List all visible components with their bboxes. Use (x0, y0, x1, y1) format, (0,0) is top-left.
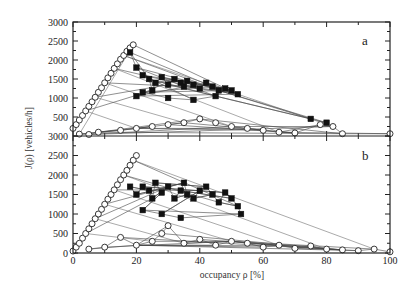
y-tick-label-b: 1500 (48, 189, 68, 200)
y-tick-label-a: 1000 (48, 93, 68, 104)
x-tick-label: 100 (383, 255, 398, 266)
y-tick-label-b: 0 (63, 248, 68, 259)
y-tick-label-a: 1500 (48, 74, 68, 85)
y-axis-ticks-panel-b: 050010001500200025003000 (48, 131, 68, 259)
y-tick-label-a: 2500 (48, 36, 68, 47)
panel-b-plot (70, 136, 393, 255)
panel-a-label: a (362, 33, 368, 48)
fundamental-diagram-chart: a b 50010001500200025003000 050010001500… (0, 0, 417, 299)
y-tick-label-b: 500 (53, 228, 68, 239)
y-tick-label-a: 500 (53, 112, 68, 123)
x-tick-label: 80 (322, 255, 332, 266)
x-axis-label: occupancy ρ [%] (200, 270, 264, 280)
x-tick-label: 60 (258, 255, 268, 266)
panel-a-plot (70, 22, 393, 137)
y-tick-label-b: 2000 (48, 170, 68, 181)
y-tick-label-b: 3000 (48, 131, 68, 142)
x-axis-ticks: 020406080100 (71, 255, 398, 266)
y-tick-label-a: 2000 (48, 55, 68, 66)
y-tick-label-b: 1000 (48, 209, 68, 220)
y-tick-label-b: 2500 (48, 150, 68, 161)
y-tick-label-a: 3000 (48, 17, 68, 28)
x-tick-label: 40 (195, 255, 205, 266)
y-axis-label: J(ρ) [vehicles/h] (24, 107, 35, 169)
x-tick-label: 20 (131, 255, 141, 266)
x-tick-label: 0 (71, 255, 76, 266)
panel-b-label: b (362, 148, 369, 163)
y-axis-ticks-panel-a: 50010001500200025003000 (48, 17, 68, 123)
